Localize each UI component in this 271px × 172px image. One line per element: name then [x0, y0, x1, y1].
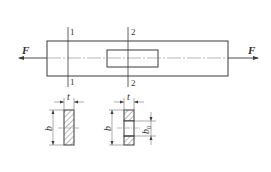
section-1-top-label: 1 — [70, 27, 75, 37]
section-1-width-label: b — [43, 126, 54, 131]
section-2-solid-bottom — [124, 136, 134, 145]
force-label-right: F — [247, 44, 256, 56]
main-view: F F 1 1 2 2 — [19, 27, 258, 88]
section-1-thickness-label: t — [67, 91, 70, 102]
section-2-hole-width-label: b 0 — [140, 126, 152, 134]
section-2-solid-top — [124, 110, 134, 121]
hole-width-subscript: 0 — [146, 126, 152, 129]
section-1-bottom-label: 1 — [70, 77, 75, 87]
section-2-top-label: 2 — [131, 27, 136, 37]
section-2-2: t b b 0 — [102, 91, 156, 145]
diagram-canvas: F F 1 1 2 2 t b — [0, 0, 271, 172]
section-1-1: t b — [43, 91, 84, 145]
section-2-thickness-label: t — [127, 91, 130, 102]
rectangular-hole — [107, 50, 158, 67]
section-2-bottom-label: 2 — [131, 78, 136, 88]
section-2-hole — [124, 121, 134, 136]
section-1-solid — [64, 110, 74, 145]
plate-outline — [47, 41, 228, 76]
section-2-width-label: b — [102, 126, 113, 131]
force-label-left: F — [21, 44, 30, 56]
